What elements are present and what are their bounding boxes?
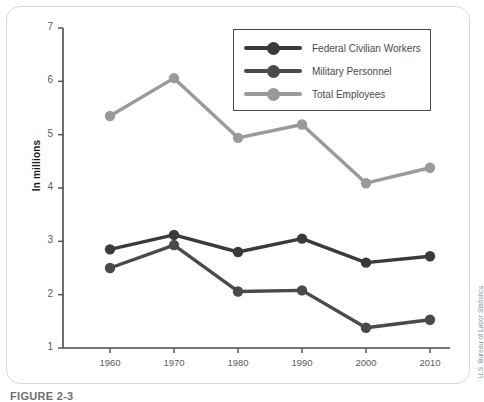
x-tick-label: 1970: [154, 357, 194, 368]
x-tick-label: 1960: [90, 357, 130, 368]
source-attribution: U.S. Bureau of Labor Statistics: [477, 268, 484, 378]
y-tick-label: 7: [31, 21, 53, 32]
legend-marker-icon: [244, 88, 302, 100]
legend-item[interactable]: Federal Civilian Workers: [244, 37, 421, 59]
legend-label: Military Personnel: [312, 66, 391, 77]
y-tick-label: 2: [31, 288, 53, 299]
y-tick-label: 4: [31, 181, 53, 192]
y-tick-label: 3: [31, 234, 53, 245]
x-tick-label: 2010: [410, 357, 450, 368]
legend-label: Federal Civilian Workers: [312, 43, 421, 54]
legend-item[interactable]: Total Employees: [244, 83, 385, 105]
legend-marker-icon: [244, 42, 302, 54]
legend-label: Total Employees: [312, 89, 385, 100]
y-tick-label: 1: [31, 341, 53, 352]
x-tick-label: 1990: [282, 357, 322, 368]
y-tick-label: 5: [31, 128, 53, 139]
figure-caption: FIGURE 2-3: [10, 390, 74, 402]
legend-marker-icon: [244, 65, 302, 77]
legend-item[interactable]: Military Personnel: [244, 60, 391, 82]
x-tick-label: 1980: [218, 357, 258, 368]
chart-legend: Federal Civilian WorkersMilitary Personn…: [233, 29, 431, 111]
y-tick-label: 6: [31, 74, 53, 85]
x-tick-label: 2000: [346, 357, 386, 368]
